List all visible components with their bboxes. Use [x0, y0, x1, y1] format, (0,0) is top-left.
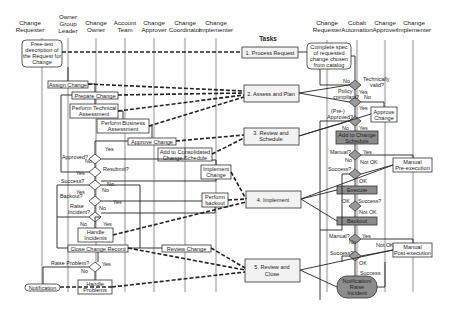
diagram-canvas: ChangeRequester OwnerGroupLeader ChangeO…	[0, 0, 451, 315]
handle-incidents: HandleIncidents	[78, 228, 113, 242]
svg-text:Success?: Success?	[328, 166, 351, 172]
svg-text:No: No	[81, 268, 88, 274]
left-lane-headers: ChangeRequester OwnerGroupLeader ChangeO…	[16, 13, 233, 34]
task-3: 3. Review andSchedule	[244, 128, 299, 145]
svg-text:Not OK: Not OK	[360, 159, 378, 165]
svg-text:No: No	[345, 157, 352, 163]
notification-raise-incident: Notification/RaiseIncident	[337, 276, 377, 298]
task-5: 5. Review andClose	[245, 259, 300, 282]
approve-change-right: ApproveChange	[371, 107, 397, 122]
svg-text:OwnerGroupLeader: OwnerGroupLeader	[58, 13, 77, 34]
notification: Notification	[25, 284, 60, 291]
svg-text:Assign Change: Assign Change	[49, 82, 87, 88]
svg-text:Yes: Yes	[102, 261, 111, 267]
resubmit-label: Resubmit?	[103, 166, 129, 172]
svg-text:Yes: Yes	[76, 189, 85, 195]
svg-text:Success?: Success?	[358, 198, 381, 204]
svg-text:ChangeImplementer: ChangeImplementer	[397, 19, 431, 33]
svg-text:No: No	[102, 187, 109, 193]
svg-text:Yes: Yes	[105, 146, 114, 152]
execute: Execute	[337, 186, 377, 194]
svg-text:(Pre-)Approved?: (Pre-)Approved?	[327, 108, 353, 120]
prepare-change: Prepare Change	[72, 92, 118, 99]
svg-text:ChangeCoordinator: ChangeCoordinator	[169, 19, 201, 33]
svg-text:HandleIncidents: HandleIncidents	[84, 229, 107, 241]
svg-text:No: No	[99, 205, 106, 211]
svg-text:Not OK: Not OK	[376, 242, 394, 248]
svg-text:Success?: Success?	[330, 250, 353, 256]
svg-text:No: No	[342, 125, 349, 131]
svg-text:Complete specof requestedchang: Complete specof requestedchange chosenfr…	[310, 44, 348, 68]
lane-header: Change	[19, 19, 41, 26]
svg-text:ApproveChange: ApproveChange	[374, 109, 395, 121]
svg-text:OK: OK	[359, 178, 367, 184]
svg-text:Yes: Yes	[76, 170, 85, 176]
svg-text:No: No	[364, 94, 371, 100]
manual-post-execution: ManualPost-execution	[393, 243, 432, 257]
svg-text:Yes: Yes	[359, 125, 368, 131]
svg-text:AccountTeam: AccountTeam	[114, 19, 137, 33]
svg-text:Close Change Record: Close Change Record	[70, 246, 125, 252]
task-1: 1. Process Request	[242, 47, 298, 58]
svg-text:No: No	[80, 221, 87, 227]
right-lane-headers: ChangeRequester CobaltAutomation ChangeA…	[313, 19, 431, 33]
svg-text:4. Implement: 4. Implement	[257, 197, 290, 203]
svg-text:Not OK: Not OK	[359, 209, 377, 215]
svg-text:ChangeApprover: ChangeApprover	[372, 19, 397, 33]
svg-text:No: No	[85, 158, 92, 164]
change-process-diagram: ChangeRequester OwnerGroupLeader ChangeO…	[0, 0, 451, 315]
svg-text:ChangeRequester: ChangeRequester	[16, 19, 45, 33]
left-decisions: Approved? Resubmit? Success? Backout? Ra…	[51, 146, 129, 274]
svg-text:OK: OK	[342, 198, 350, 204]
assign-change: Assign Change	[48, 81, 88, 88]
perform-business-assessment: Perform BusinessAssessment	[97, 119, 149, 133]
free-text-request: Free-textdescription ofthe Request forCh…	[22, 40, 62, 67]
svg-text:CobaltAutomation: CobaltAutomation	[341, 19, 373, 33]
svg-text:1. Process Request: 1. Process Request	[246, 50, 295, 56]
svg-text:Backout: Backout	[347, 218, 368, 224]
task-4: 4. Implement	[246, 191, 301, 208]
success-label: Success?	[61, 178, 84, 184]
svg-text:Execute: Execute	[347, 187, 367, 193]
handle-problems: HandleProblems	[78, 280, 112, 294]
svg-text:ChangeOwner: ChangeOwner	[85, 19, 107, 33]
svg-text:2. Assess and Plan: 2. Assess and Plan	[247, 91, 295, 97]
svg-text:Approve Change: Approve Change	[131, 139, 173, 145]
raise-problem-label: Raise Problem?	[51, 260, 89, 266]
complete-spec: Complete specof requestedchange chosenfr…	[307, 43, 351, 69]
svg-text:ChangeImplementer: ChangeImplementer	[199, 19, 233, 33]
svg-text:ImplementChange: ImplementChange	[203, 166, 230, 178]
svg-text:Notification: Notification	[29, 285, 57, 291]
svg-text:Review Change: Review Change	[167, 246, 207, 252]
svg-text:Yes: Yes	[363, 149, 372, 155]
backout-right: Backout	[337, 217, 377, 225]
svg-text:RaiseIncident?: RaiseIncident?	[68, 203, 90, 215]
svg-text:OK: OK	[359, 260, 367, 266]
svg-text:ChangeRequester: ChangeRequester	[313, 19, 342, 33]
svg-text:Yes: Yes	[359, 105, 368, 111]
svg-text:ChangeApprover: ChangeApprover	[141, 19, 166, 33]
add-to-change-schedule: Add to ChangeSchedule	[336, 131, 378, 144]
implement-change: ImplementChange	[201, 165, 231, 179]
task-2: 2. Assess and Plan	[244, 85, 299, 102]
svg-text:Yes: Yes	[103, 221, 112, 227]
close-change-record: Close Change Record	[68, 245, 128, 252]
svg-text:Manual?: Manual?	[330, 149, 351, 155]
tasks-title: Tasks	[259, 35, 277, 42]
review-change: Review Change	[162, 245, 211, 252]
svg-text:Manual?: Manual?	[329, 233, 350, 239]
svg-text:Performbackout: Performbackout	[205, 194, 225, 206]
svg-text:Yes: Yes	[362, 233, 371, 239]
svg-text:Success: Success	[360, 270, 381, 276]
manual-pre-execution: ManualPre-execution	[393, 158, 432, 172]
svg-text:Yes: Yes	[113, 199, 122, 205]
svg-text:No: No	[343, 78, 350, 84]
perform-technical-assessment: Perform TechnicalAssessment	[70, 104, 118, 118]
approve-change-left: Approve Change	[128, 138, 176, 145]
perform-backout: Performbackout	[202, 193, 228, 207]
svg-text:Prepare Change: Prepare Change	[74, 93, 115, 99]
